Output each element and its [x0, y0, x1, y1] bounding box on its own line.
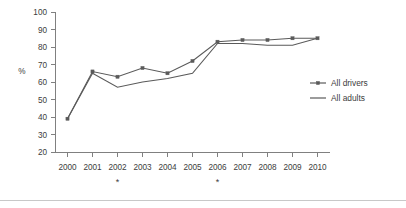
y-tick-label: 90 — [38, 26, 48, 35]
y-tick-label: 60 — [38, 78, 48, 87]
x-tick-label: 2007 — [233, 163, 252, 172]
x-axis: 2000200120022003200420052006200720082009… — [58, 152, 327, 172]
y-tick-label: 80 — [38, 43, 48, 52]
y-axis: 2030405060708090100 — [33, 8, 55, 157]
series-line-all-drivers — [68, 38, 318, 119]
series-line-all-adults — [68, 38, 318, 119]
legend-label: All adults — [331, 93, 365, 103]
data-series-group — [66, 37, 319, 121]
y-tick-label: 50 — [38, 96, 48, 105]
y-tick-label: 30 — [38, 131, 48, 140]
x-tick-label: 2002 — [108, 163, 127, 172]
series-point — [241, 38, 244, 41]
x-tick-label: 2008 — [258, 163, 277, 172]
x-tick-label: 2005 — [183, 163, 202, 172]
annotation-group: ** — [116, 177, 220, 187]
x-tick-label: 2001 — [83, 163, 102, 172]
x-tick-label: 2003 — [133, 163, 152, 172]
legend-swatch-marker — [316, 81, 319, 84]
x-tick-label: 2004 — [158, 163, 177, 172]
series-point — [216, 40, 219, 43]
y-tick-label: 70 — [38, 61, 48, 70]
y-axis-title: % — [18, 67, 25, 76]
x-tick-label: 2006 — [208, 163, 227, 172]
series-point — [191, 59, 194, 62]
x-tick-label: 2010 — [308, 163, 327, 172]
chart-container: % 2030405060708090100 200020012002200320… — [0, 0, 406, 208]
x-tick-label: 2009 — [283, 163, 302, 172]
series-point — [166, 72, 169, 75]
y-tick-label: 20 — [38, 148, 48, 157]
x-tick-label: 2000 — [58, 163, 77, 172]
chart-legend: All driversAll adults — [310, 78, 368, 103]
series-point — [291, 37, 294, 40]
y-tick-label: 40 — [38, 113, 48, 122]
footnote-asterisk: * — [116, 177, 120, 187]
series-point — [141, 66, 144, 69]
legend-label: All drivers — [331, 78, 368, 88]
y-tick-label: 100 — [33, 8, 47, 17]
line-chart: % 2030405060708090100 200020012002200320… — [0, 0, 406, 208]
series-point — [266, 38, 269, 41]
series-point — [116, 75, 119, 78]
footnote-asterisk: * — [216, 177, 220, 187]
